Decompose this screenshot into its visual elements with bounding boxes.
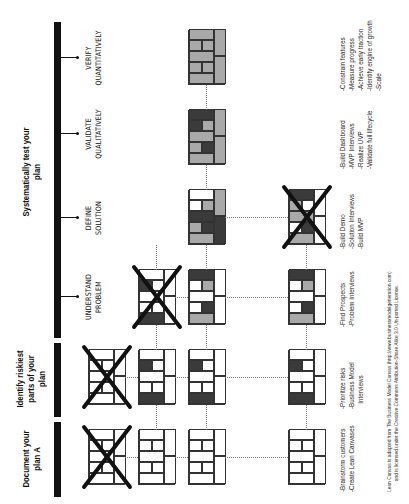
canvas-cell [152,280,165,291]
tick-understand [61,296,77,297]
canvas-cell [214,29,226,57]
tasks-define: -Build Demo -Solution Interviews -Build … [338,194,365,249]
stage-line2: QUALITATIVELY [94,104,104,164]
lean-canvas [288,430,325,485]
canvas-cell [189,382,202,393]
dotted-connector [206,405,207,430]
dotted-connector [156,405,157,430]
canvas-cell [189,233,214,244]
canvas-cell [114,457,126,485]
phase-title-document: Document your plan A [20,430,42,487]
canvas-cell [289,211,314,222]
canvas-cell [214,429,226,457]
canvas-cell [202,462,215,473]
canvas-cell [89,360,102,371]
canvas-cell [89,440,102,451]
dotted-connector [175,297,188,298]
canvas-cell [139,473,164,484]
stage-line2: SOLUTION [94,193,104,244]
lean-canvas [288,270,325,325]
tick-validate [61,133,77,134]
canvas-cell [89,371,114,382]
canvas-cell [214,297,226,325]
canvas-cell [139,440,152,451]
canvas-cell [289,429,314,440]
stage-label-understand: UNDERSTAND PROBLEM [84,272,104,323]
canvas-cell [289,189,314,200]
lean-canvas-discarded [138,270,175,325]
tasks-understand: -Find Prospects -Problem Interviews [338,271,356,327]
canvas-cell [214,217,226,245]
canvas-cell [139,462,152,473]
dotted-connector [225,457,288,458]
lean-canvas [188,430,225,485]
lean-canvas [138,350,175,405]
canvas-cell [102,440,115,451]
lean-canvas [188,270,225,325]
lean-canvas-discarded [88,350,125,405]
canvas-cell [289,291,314,302]
canvas-cell [302,462,315,473]
canvas-cell [89,382,102,393]
canvas-cell [139,349,164,360]
footer-line2: and is licensed under the Creative Commo… [393,271,400,492]
canvas-cell [189,313,214,324]
canvas-cell [139,429,164,440]
canvas-cell [164,349,176,377]
stage-label-verify: VERIFY QUANTITATIVELY [84,28,104,88]
canvas-cell [189,131,214,142]
canvas-cell [189,393,214,404]
canvas-cell [289,280,302,291]
canvas-cell [139,280,152,291]
tick-dot-validate [76,132,79,135]
canvas-cell [139,269,164,280]
canvas-cell [189,73,214,84]
canvas-cell [289,451,314,462]
canvas-cell [202,382,215,393]
lean-canvas-discarded [288,190,325,245]
canvas-cell [189,360,202,371]
canvas-cell [139,393,164,404]
canvas-cell [214,269,226,297]
footer-line1: Lean Canvas is adapted from The Business… [386,271,393,492]
canvas-cell [289,222,302,233]
canvas-cell [214,109,226,137]
stage-line2: QUANTITATIVELY [94,28,104,88]
lean-canvas [138,430,175,485]
canvas-cell [189,62,202,73]
dotted-connector [206,85,207,110]
canvas-cell [202,120,215,131]
canvas-cell [214,137,226,165]
stage-line1: UNDERSTAND [84,272,94,323]
canvas-cell [302,200,315,211]
canvas-cell [314,349,326,377]
canvas-cell [202,200,215,211]
canvas-cell [202,280,215,291]
canvas-cell [214,189,226,217]
canvas-cell [189,429,214,440]
canvas-cell [152,360,165,371]
canvas-cell [302,222,315,233]
canvas-cell [102,360,115,371]
dotted-connector [156,325,157,350]
canvas-cell [189,29,214,40]
dotted-connector [306,405,307,430]
canvas-cell [289,440,302,451]
canvas-cell [189,109,214,120]
canvas-cell [114,377,126,405]
stage-line1: VALIDATE [84,104,94,164]
canvas-cell [202,40,215,51]
stage-line2: PROBLEM [94,272,104,323]
canvas-cell [189,291,214,302]
tick-dot-verify [76,56,79,59]
dotted-connector [225,377,288,378]
canvas-cell [189,302,202,313]
canvas-cell [302,382,315,393]
tick-define [61,217,77,218]
phase-bar-test [54,22,61,338]
canvas-cell [289,462,302,473]
canvas-cell [152,302,165,313]
canvas-cell [152,440,165,451]
canvas-cell [289,313,314,324]
canvas-cell [89,451,114,462]
